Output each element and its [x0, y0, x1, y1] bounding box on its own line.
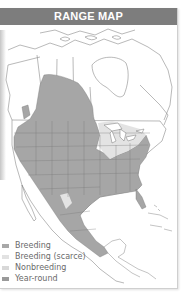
breeding-scarce-swatch-icon [2, 255, 9, 259]
caribbean [148, 205, 172, 231]
page-edge-shadow [0, 30, 6, 180]
legend-item-breeding-scarce: Breeding (scarce) [2, 252, 86, 262]
legend-item-year-round: Year-round [2, 274, 86, 284]
florida [136, 189, 146, 209]
legend: Breeding Breeding (scarce) Nonbreeding Y… [2, 241, 86, 285]
range-map-title: RANGE MAP [0, 8, 177, 25]
year-round-swatch-icon [2, 277, 9, 281]
breeding-swatch-icon [2, 244, 9, 248]
baja [22, 185, 36, 221]
nonbreeding-swatch-icon [2, 266, 9, 270]
central-america [104, 239, 156, 279]
legend-item-nonbreeding: Nonbreeding [2, 263, 86, 273]
range-map-card: RANGE MAP [0, 8, 178, 289]
legend-item-breeding: Breeding [2, 241, 86, 251]
breeding-range [14, 74, 150, 257]
